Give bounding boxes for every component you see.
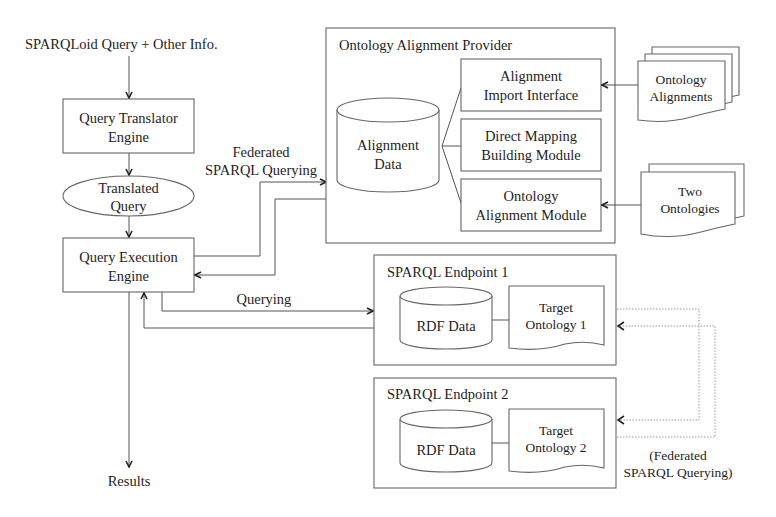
ontology-alignments-document-stack: Ontology Alignments <box>638 47 739 121</box>
svg-text:Translated: Translated <box>98 180 159 196</box>
svg-text:Building Module: Building Module <box>481 147 581 163</box>
federated-label-line2: SPARQL Querying <box>205 162 317 178</box>
target-ontology-1-document: Target Ontology 1 <box>509 286 604 349</box>
alignment-import-interface: Alignment Import Interface <box>461 59 601 111</box>
svg-text:RDF Data: RDF Data <box>416 442 476 458</box>
svg-text:Alignment: Alignment <box>357 137 419 153</box>
federated-paren-line2: SPARQL Querying) <box>624 465 733 480</box>
query-translator-engine: Query Translator Engine <box>63 99 194 153</box>
svg-text:Ontology: Ontology <box>504 188 560 204</box>
svg-text:Ontology: Ontology <box>655 72 706 87</box>
svg-text:Two: Two <box>678 184 702 199</box>
svg-text:Alignment: Alignment <box>500 68 562 84</box>
svg-text:Alignment Module: Alignment Module <box>476 207 587 223</box>
svg-text:Ontology 1: Ontology 1 <box>525 317 586 332</box>
svg-text:Target: Target <box>539 300 573 315</box>
query-execution-engine: Query Execution Engine <box>63 238 194 292</box>
svg-text:Query: Query <box>110 198 147 214</box>
federated-querying-dotted-links <box>617 309 715 437</box>
sparql-endpoint-1: SPARQL Endpoint 1 RDF Data Target Ontolo… <box>374 255 616 365</box>
federated-paren-line1: (Federated <box>649 448 707 463</box>
ontology-alignment-module: Ontology Alignment Module <box>461 179 601 231</box>
svg-text:Target: Target <box>539 423 573 438</box>
svg-text:Alignments: Alignments <box>650 89 713 104</box>
svg-text:Direct Mapping: Direct Mapping <box>485 128 577 144</box>
direct-mapping-building-module: Direct Mapping Building Module <box>461 119 601 171</box>
sparql-endpoint-2: SPARQL Endpoint 2 RDF Data Target Ontolo… <box>374 378 616 488</box>
svg-text:Ontology Alignment Provider: Ontology Alignment Provider <box>339 37 512 53</box>
svg-text:Query Execution: Query Execution <box>79 249 178 265</box>
translated-query: Translated Query <box>63 176 194 216</box>
svg-text:SPARQL Endpoint 1: SPARQL Endpoint 1 <box>387 264 508 280</box>
rdf-data-cylinder-2: RDF Data <box>400 410 492 472</box>
svg-text:Engine: Engine <box>108 268 149 284</box>
results-label: Results <box>108 473 151 489</box>
federated-label-line1: Federated <box>232 144 290 160</box>
svg-text:Query Translator: Query Translator <box>79 110 178 126</box>
querying-label: Querying <box>237 291 292 307</box>
svg-text:RDF Data: RDF Data <box>416 318 476 334</box>
ontology-alignment-provider: Ontology Alignment Provider Alignment Da… <box>326 28 615 243</box>
input-label: SPARQLoid Query + Other Info. <box>25 36 218 52</box>
svg-text:SPARQL Endpoint 2: SPARQL Endpoint 2 <box>387 386 508 402</box>
svg-text:Ontology 2: Ontology 2 <box>525 440 586 455</box>
arrow-execution-to-provider <box>194 182 326 256</box>
two-ontologies-documents: Two Ontologies <box>641 164 744 237</box>
svg-text:Import Interface: Import Interface <box>484 87 579 103</box>
svg-text:Engine: Engine <box>108 129 149 145</box>
svg-text:Data: Data <box>374 156 402 172</box>
svg-text:Ontologies: Ontologies <box>660 201 719 216</box>
target-ontology-2-document: Target Ontology 2 <box>509 409 604 472</box>
rdf-data-cylinder-1: RDF Data <box>400 287 492 349</box>
alignment-data-cylinder: Alignment Data <box>337 98 439 192</box>
